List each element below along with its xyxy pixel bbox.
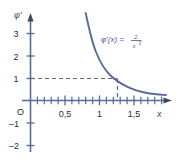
y-axis-arrow-icon [27,13,33,22]
x-tick-label-1: 1 [97,109,102,119]
y-tick-label-3: 3 [13,29,18,39]
x-tick-label-0-5: 0,5 [59,109,72,119]
y-tick-label-minus-1: –1 [9,119,19,129]
guide-lines-group [31,79,118,101]
formula-denominator: x [132,43,137,49]
chart-figure: φ' x O 3 2 1 –1 –2 0,5 1 1,5 φ'(x) = 2 x… [0,0,176,158]
curve-phi-prime [86,13,166,95]
formula-annotation: φ'(x) = 2 x 3 [101,34,142,49]
x-tick-label-1-5: 1,5 [128,109,141,119]
formula-numerator: 2 [133,34,138,40]
x-axis-label: x [156,109,162,119]
y-tick-label-minus-2: –2 [9,141,19,151]
x-axis-arrow-icon [164,97,173,103]
function-plot: φ' x O 3 2 1 –1 –2 0,5 1 1,5 φ'(x) = 2 x… [0,0,176,158]
y-tick-label-1: 1 [13,74,18,84]
formula-exponent: 3 [139,41,142,46]
y-axis-label: φ' [14,10,22,20]
origin-label: O [17,107,24,117]
y-tick-label-2: 2 [13,52,18,62]
axes-group [22,13,172,152]
formula-lhs: φ'(x) = [101,35,124,44]
